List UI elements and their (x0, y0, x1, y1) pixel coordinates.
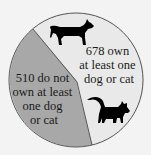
label-owners: 678 own at least one dog or cat (79, 44, 138, 86)
pie-chart: 678 own at least one dog or cat 510 do n… (0, 0, 151, 155)
